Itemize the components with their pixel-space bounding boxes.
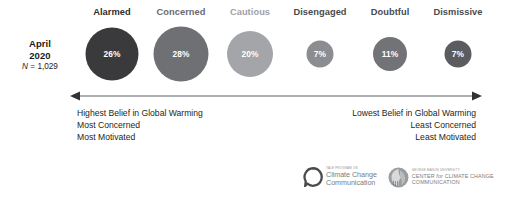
segment-value: 7%	[314, 50, 326, 58]
segment-value: 28%	[172, 50, 189, 58]
survey-period-block: April 2020 N = 1,029	[8, 38, 72, 72]
segment-bubble[interactable]: 7%	[445, 41, 472, 68]
segment-label: Cautious	[213, 6, 287, 18]
yale-climate-communication-logo-icon	[303, 167, 323, 187]
descriptor-left-line-2: Most Concerned	[77, 120, 203, 132]
segment-alarmed[interactable]: Alarmed 26%	[75, 6, 149, 83]
segment-value: 26%	[103, 50, 120, 58]
bubble-slot: 7%	[421, 25, 495, 83]
yale-logo-text: YALE PROGRAM ON Climate Change Communica…	[326, 167, 377, 187]
segment-label: Dismissive	[421, 6, 495, 18]
gmu-logo-line-1: CENTER for CLIMATE CHANGE	[412, 173, 494, 179]
descriptor-right: Lowest Belief in Global Warming Least Co…	[352, 108, 476, 144]
gmu-line-1-a: CENTER	[412, 173, 437, 179]
bubble-slot: 20%	[213, 25, 287, 83]
gmu-line-1-c: CLIMATE CHANGE	[443, 173, 494, 179]
logo-row: YALE PROGRAM ON Climate Change Communica…	[303, 160, 499, 194]
segment-label: Doubtful	[353, 6, 427, 18]
bubble-slot: 26%	[75, 25, 149, 83]
yale-logo-line-2: Communication	[326, 179, 377, 187]
bubble-slot: 11%	[353, 25, 427, 83]
segment-concerned[interactable]: Concerned 28%	[144, 6, 218, 83]
segment-bubble[interactable]: 28%	[154, 27, 209, 82]
six-americas-figure: April 2020 N = 1,029 Alarmed 26% Concern…	[0, 0, 506, 205]
descriptor-left-line-1: Highest Belief in Global Warming	[77, 108, 203, 120]
yale-logo[interactable]: YALE PROGRAM ON Climate Change Communica…	[303, 167, 377, 187]
continuum-arrow	[70, 88, 482, 104]
segment-label: Concerned	[144, 6, 218, 18]
segment-value: 20%	[241, 50, 258, 58]
segment-doubtful[interactable]: Doubtful 11%	[353, 6, 427, 83]
gmu-logo-line-2: COMMUNICATION	[412, 179, 494, 185]
segment-label: Alarmed	[75, 6, 149, 18]
survey-year: 2020	[8, 50, 72, 62]
segment-bubble[interactable]: 26%	[86, 28, 139, 81]
descriptor-left-line-3: Most Motivated	[77, 132, 203, 144]
segment-dismissive[interactable]: Dismissive 7%	[421, 6, 495, 83]
segment-value: 7%	[452, 50, 464, 58]
segment-value: 11%	[382, 50, 399, 58]
segment-bubble[interactable]: 7%	[307, 41, 334, 68]
sample-value: 1,029	[37, 62, 58, 71]
bubble-slot: 28%	[144, 25, 218, 83]
segment-disengaged[interactable]: Disengaged 7%	[283, 6, 357, 83]
segment-label: Disengaged	[283, 6, 357, 18]
segment-cautious[interactable]: Cautious 20%	[213, 6, 287, 83]
segment-bubble[interactable]: 11%	[373, 37, 407, 71]
survey-sample-size: N = 1,029	[8, 62, 72, 72]
gmu-logo-text: GEORGE MASON UNIVERSITY CENTER for CLIMA…	[412, 169, 494, 185]
bubble-slot: 7%	[283, 25, 357, 83]
descriptor-right-line-3: Least Motivated	[352, 132, 476, 144]
descriptor-right-line-2: Least Concerned	[352, 120, 476, 132]
survey-month: April	[8, 38, 72, 50]
segment-bubble[interactable]: 20%	[227, 31, 273, 77]
descriptor-left: Highest Belief in Global Warming Most Co…	[77, 108, 203, 144]
descriptor-right-line-1: Lowest Belief in Global Warming	[352, 108, 476, 120]
gmu-logo[interactable]: GEORGE MASON UNIVERSITY CENTER for CLIMA…	[388, 167, 494, 188]
sample-equals: =	[28, 62, 37, 71]
george-mason-mascot-logo-icon	[388, 167, 409, 188]
